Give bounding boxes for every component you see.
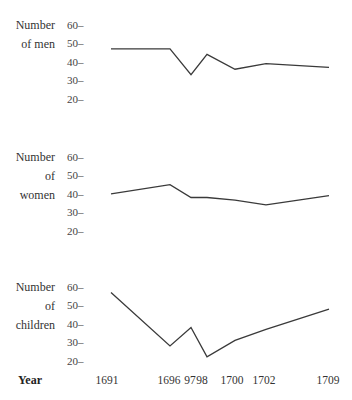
- x-tick-label: 1702: [253, 374, 276, 386]
- series-line-women: [111, 185, 329, 205]
- x-tick-label: 97: [184, 374, 196, 386]
- y-tick-label: 20–: [67, 355, 84, 367]
- y-tick-label: 50–: [67, 299, 84, 311]
- panel-women: Numberofwomen60–50–40–30–20–: [16, 150, 329, 237]
- y-axis-label: of men: [21, 37, 55, 51]
- y-axis-label: Number: [16, 18, 55, 32]
- y-axis-label: Number: [16, 150, 55, 164]
- panel-children: Numberofchildren60–50–40–30–20–: [16, 280, 329, 367]
- y-tick-label: 40–: [67, 318, 84, 330]
- x-tick-label: 1700: [221, 374, 244, 386]
- x-axis-title: Year: [18, 373, 43, 387]
- y-tick-label: 60–: [67, 19, 84, 31]
- y-axis-label: of: [45, 299, 55, 313]
- chart-panels: Numberof men60–50–40–30–20–Numberofwomen…: [16, 18, 329, 367]
- x-axis: Year 169116969798170017021709: [18, 373, 340, 387]
- series-line-men: [111, 49, 329, 75]
- line-chart: Numberof men60–50–40–30–20–Numberofwomen…: [0, 0, 352, 400]
- panel-men: Numberof men60–50–40–30–20–: [16, 18, 329, 105]
- y-axis-label: of: [45, 169, 55, 183]
- y-tick-label: 40–: [67, 56, 84, 68]
- y-tick-label: 20–: [67, 225, 84, 237]
- x-tick-label: 1691: [96, 374, 119, 386]
- y-axis-label: children: [16, 318, 55, 332]
- y-tick-label: 60–: [67, 151, 84, 163]
- y-tick-label: 30–: [67, 74, 84, 86]
- y-tick-label: 30–: [67, 206, 84, 218]
- y-tick-label: 40–: [67, 188, 84, 200]
- y-tick-label: 20–: [67, 93, 84, 105]
- y-tick-label: 60–: [67, 281, 84, 293]
- y-tick-label: 30–: [67, 336, 84, 348]
- y-axis-label: women: [20, 188, 55, 202]
- x-tick-label: 98: [196, 374, 208, 386]
- x-tick-label: 1696: [158, 374, 181, 386]
- y-tick-label: 50–: [67, 37, 84, 49]
- series-line-children: [111, 293, 329, 357]
- y-axis-label: Number: [16, 280, 55, 294]
- y-tick-label: 50–: [67, 169, 84, 181]
- x-tick-label: 1709: [317, 374, 340, 386]
